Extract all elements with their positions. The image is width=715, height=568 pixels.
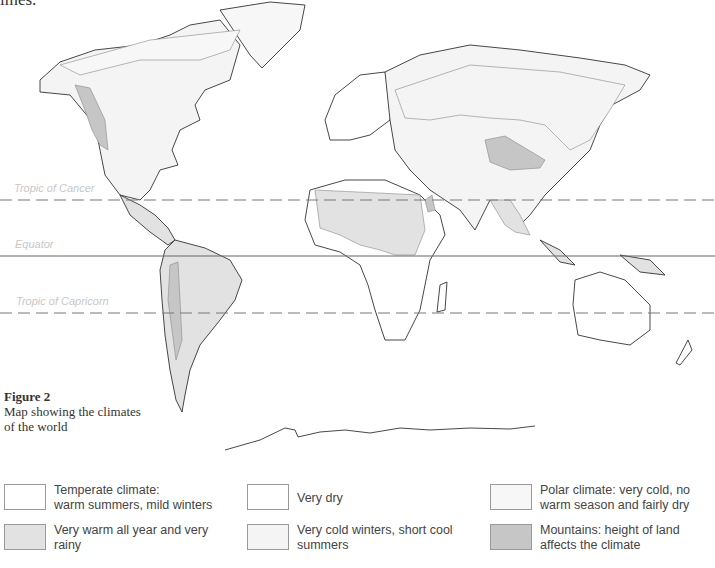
equator-label: Equator <box>15 238 54 250</box>
legend-item-mountains: Mountains: height of landaffects the cli… <box>490 524 680 553</box>
legend-item-polar: Polar climate: very cold, nowarm season … <box>490 484 690 513</box>
figure-caption: Figure 2 Map showing the climates of the… <box>4 389 141 434</box>
legend-label: Very dry <box>297 491 343 506</box>
legend-label: Mountains: height of landaffects the cli… <box>540 523 680 553</box>
legend-label: Polar climate: very cold, nowarm season … <box>540 483 690 513</box>
new-guinea <box>620 255 665 275</box>
swatch-mountains <box>490 524 532 550</box>
indonesia <box>540 240 575 265</box>
tropic-of-cancer-label: Tropic of Cancer <box>14 182 95 194</box>
tropic-of-capricorn-label: Tropic of Capricorn <box>16 295 109 307</box>
antarctica-coast <box>225 426 535 450</box>
caption-line-1: Map showing the climates <box>4 404 141 419</box>
swatch-very-warm-rainy <box>4 524 46 550</box>
swatch-temperate <box>4 484 46 510</box>
legend-item-very-warm-rainy: Very warm all year and veryrainy <box>4 524 208 553</box>
caption-line-2: of the world <box>4 419 141 434</box>
madagascar <box>437 282 447 312</box>
europe <box>325 72 395 140</box>
australia <box>573 272 650 345</box>
legend-label: Temperate climate:warm summers, mild win… <box>54 483 212 513</box>
new-zealand <box>676 340 692 365</box>
swatch-polar <box>490 484 532 510</box>
swatch-very-cold-winters <box>247 524 289 550</box>
swatch-very-dry <box>247 484 289 510</box>
legend-item-very-dry: Very dry <box>247 484 343 510</box>
legend-item-very-cold-winters: Very cold winters, short coolsummers <box>247 524 453 553</box>
legend-label: Very warm all year and veryrainy <box>54 523 208 553</box>
legend-label: Very cold winters, short coolsummers <box>297 523 453 553</box>
caption-title: Figure 2 <box>4 389 141 404</box>
legend-item-temperate: Temperate climate:warm summers, mild win… <box>4 484 212 513</box>
central-america <box>120 195 175 245</box>
